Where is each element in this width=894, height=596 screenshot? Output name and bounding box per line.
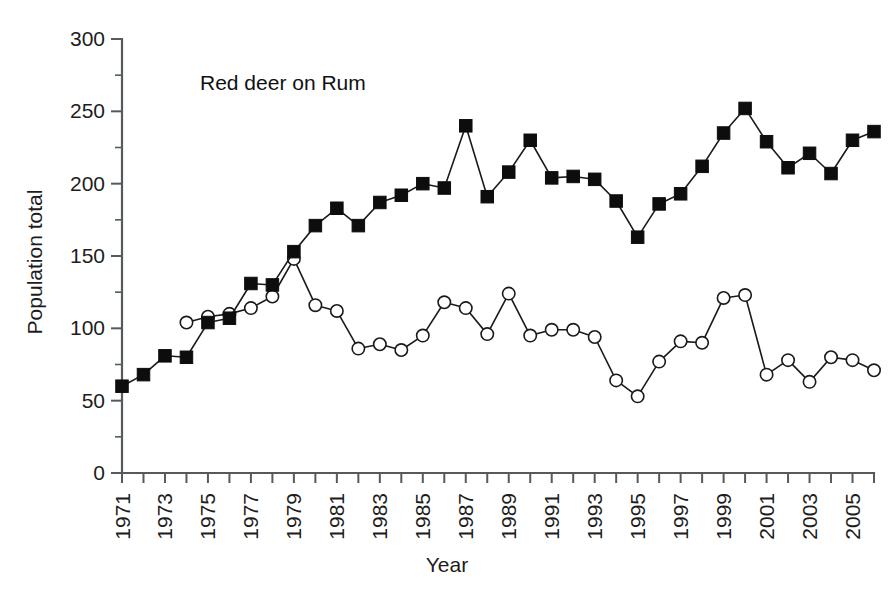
data-point-square [438,182,451,195]
data-point-square [696,160,709,173]
data-point-square [309,219,322,232]
data-point-circle [696,337,708,349]
data-point-square [374,196,387,209]
x-tick-label: 1997 [669,493,692,540]
data-point-square [481,190,494,203]
data-point-square [868,125,881,138]
data-point-circle [417,329,429,341]
axes [122,39,874,473]
x-tick-label: 1975 [196,493,219,540]
data-series-group [116,102,881,402]
data-point-square [567,170,580,183]
data-point-circle [374,338,386,350]
x-tick-label: 1987 [454,493,477,540]
y-tick-label: 300 [70,27,105,50]
series-line [122,108,874,386]
data-point-circle [460,302,472,314]
data-point-circle [653,355,665,367]
data-point-square [245,277,258,290]
data-series-1 [116,102,881,392]
x-tick-label: 1999 [712,493,735,540]
x-tick-label: 1971 [111,493,134,540]
data-point-square [739,102,752,115]
chart-annotation: Red deer on Rum [200,71,366,94]
data-point-square [266,279,279,292]
chart-canvas: 050100150200250300 197119731975197719791… [0,0,894,596]
y-axis-title: Population total [23,190,46,335]
data-point-circle [567,324,579,336]
data-point-square [331,202,344,215]
x-tick-label: 1995 [626,493,649,540]
y-tick-label: 0 [93,461,105,484]
data-point-circle [674,335,686,347]
y-tick-label: 250 [70,99,105,122]
x-axis-title: Year [426,553,468,576]
data-point-square [524,134,537,147]
data-point-circle [481,328,493,340]
data-series-2 [180,253,880,403]
data-point-square [460,120,473,133]
x-tick-label: 1977 [239,493,262,540]
data-point-square [760,135,773,148]
data-point-circle [739,289,751,301]
data-point-square [653,198,666,211]
data-point-circle [503,287,515,299]
x-tick-label: 1979 [282,493,305,540]
y-tick-label: 200 [70,172,105,195]
x-tick-label: 1993 [583,493,606,540]
data-point-circle [524,329,536,341]
data-point-square [417,177,430,190]
x-tick-label: 1981 [325,493,348,540]
data-point-square [223,312,236,325]
x-tick-label: 1983 [368,493,391,540]
data-point-circle [546,324,558,336]
x-tick-label: 1973 [153,493,176,540]
data-point-circle [717,292,729,304]
data-point-square [674,188,687,201]
data-point-square [631,231,644,244]
x-tick-label: 1989 [497,493,520,540]
data-point-circle [331,305,343,317]
data-point-square [825,167,838,180]
data-point-square [782,162,795,175]
data-point-circle [309,299,321,311]
data-point-circle [803,376,815,388]
x-tick-label: 1991 [540,493,563,540]
data-point-square [502,166,515,179]
y-tick-label: 50 [82,389,105,412]
data-point-square [202,316,215,329]
data-point-circle [610,374,622,386]
data-point-circle [180,316,192,328]
x-tick-label: 2005 [841,493,864,540]
x-tick-label: 2003 [798,493,821,540]
data-point-circle [395,344,407,356]
y-tick-label: 100 [70,316,105,339]
data-point-square [717,127,730,140]
data-point-square [180,351,193,364]
data-point-square [588,173,601,186]
data-point-circle [631,390,643,402]
data-point-square [545,172,558,185]
data-point-square [803,147,816,160]
data-point-circle [266,290,278,302]
data-point-square [137,368,150,381]
chart-figure: 050100150200250300 197119731975197719791… [0,0,894,596]
data-point-square [352,219,365,232]
data-point-circle [245,302,257,314]
data-point-square [116,380,129,393]
data-point-circle [782,354,794,366]
data-point-circle [438,296,450,308]
data-point-square [846,134,859,147]
data-point-circle [588,331,600,343]
data-point-circle [825,351,837,363]
x-tick-label: 2001 [755,493,778,540]
data-point-circle [352,342,364,354]
data-point-square [288,245,301,258]
data-point-circle [760,368,772,380]
y-tick-label: 150 [70,244,105,267]
data-point-circle [846,354,858,366]
data-point-circle [868,364,880,376]
y-axis-tick-labels: 050100150200250300 [70,27,105,484]
x-axis-tick-labels: 1971197319751977197919811983198519871989… [111,493,865,540]
data-point-square [610,195,623,208]
